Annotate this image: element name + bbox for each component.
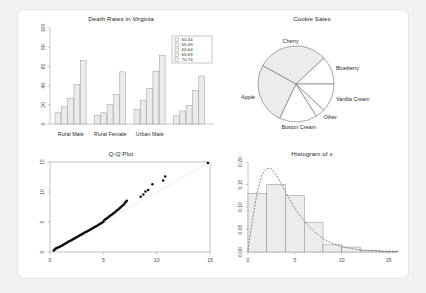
qqplot-point bbox=[162, 179, 165, 182]
qqplot-ytick: 10 bbox=[39, 189, 45, 195]
barplot-svg: 020406080100Rural MaleRural FemaleUrban … bbox=[24, 12, 218, 148]
qqplot-xtick: 15 bbox=[207, 257, 213, 263]
barplot-legend-label: 70-74 bbox=[182, 57, 194, 62]
barplot-bar bbox=[68, 98, 74, 124]
barplot-legend-key bbox=[175, 38, 178, 41]
barplot-bar bbox=[101, 113, 107, 124]
barplot-bar bbox=[140, 101, 146, 124]
barplot-bar bbox=[120, 72, 126, 124]
barplot-legend-key bbox=[175, 43, 178, 46]
qqplot-point bbox=[151, 183, 154, 186]
piechart-svg: BlueberryCherryAppleBoston CreamOtherVan… bbox=[218, 12, 406, 148]
qqplot-point bbox=[142, 193, 145, 196]
histogram-ytick: 0.00 bbox=[237, 247, 243, 257]
pie-slice-label: Other bbox=[323, 114, 337, 120]
histogram-bar bbox=[286, 196, 305, 252]
barplot-bar bbox=[134, 109, 140, 124]
histogram-ytick: 0.20 bbox=[237, 157, 243, 167]
pie-slice-label: Blueberry bbox=[336, 65, 359, 71]
barplot-category-label: Rural Female bbox=[94, 131, 126, 137]
barplot-panel: Death Rates in Virginia 020406080100Rura… bbox=[24, 12, 218, 148]
barplot-bar bbox=[192, 90, 198, 124]
qqplot-xtick: 5 bbox=[102, 257, 105, 263]
barplot-bar bbox=[107, 105, 113, 124]
barplot-bar bbox=[186, 105, 192, 124]
barplot-legend-key bbox=[175, 58, 178, 61]
qqplot-svg: 051015051015 bbox=[24, 148, 218, 278]
qqplot-point bbox=[207, 162, 210, 165]
qqplot-point bbox=[147, 189, 150, 192]
barplot-bar bbox=[147, 88, 153, 124]
barplot-category-label: Urban Male bbox=[136, 131, 164, 137]
qqplot-point bbox=[144, 190, 147, 193]
barplot-bar bbox=[61, 107, 67, 124]
histogram-title: Histogram of x bbox=[218, 150, 406, 157]
histogram-xtick: 15 bbox=[386, 257, 392, 263]
histogram-bar bbox=[342, 247, 361, 252]
histogram-ytick: 0.05 bbox=[237, 224, 243, 234]
barplot-ytick: 80 bbox=[40, 44, 46, 50]
barplot-bar bbox=[113, 94, 119, 124]
barplot-legend-key bbox=[175, 53, 178, 56]
qqplot-xtick: 10 bbox=[154, 257, 160, 263]
barplot-bar bbox=[180, 111, 186, 124]
barplot-bar bbox=[153, 72, 159, 124]
pie-slice-label: Cherry bbox=[283, 38, 299, 44]
barplot-title: Death Rates in Virginia bbox=[24, 15, 218, 22]
qqplot-ytick: 5 bbox=[39, 220, 45, 223]
barplot-bar bbox=[159, 56, 165, 124]
graphics-device-panel: Death Rates in Virginia 020406080100Rura… bbox=[17, 9, 409, 279]
qqplot-ytick: 15 bbox=[39, 159, 45, 165]
barplot-bar bbox=[55, 113, 61, 124]
barplot-bar bbox=[199, 76, 205, 124]
histogram-bar bbox=[304, 223, 323, 252]
qqplot-point bbox=[164, 175, 167, 178]
piechart-panel: Cookie Sales BlueberryCherryAppleBoston … bbox=[218, 12, 406, 148]
pie-slice-label: Vanilla Cream bbox=[336, 96, 370, 102]
qqplot-ytick: 0 bbox=[39, 250, 45, 253]
barplot-ytick: 100 bbox=[40, 24, 46, 33]
histogram-bar bbox=[267, 185, 286, 253]
barplot-ytick: 0 bbox=[40, 122, 46, 125]
barplot-bar bbox=[174, 116, 180, 124]
qqplot-point bbox=[126, 199, 129, 202]
barplot-bar bbox=[74, 85, 80, 124]
barplot-ytick: 40 bbox=[40, 83, 46, 89]
histogram-ytick: 0.15 bbox=[237, 179, 243, 189]
qqplot-panel: Q-Q Plot 051015051015 bbox=[24, 148, 218, 278]
histogram-panel: Histogram of x 0.000.050.100.150.2005101… bbox=[218, 148, 406, 278]
barplot-category-label: Rural Male bbox=[58, 131, 84, 137]
barplot-ytick: 20 bbox=[40, 102, 46, 108]
pie-slice-label: Boston Cream bbox=[281, 124, 316, 130]
histogram-ytick: 0.10 bbox=[237, 202, 243, 212]
piechart-title: Cookie Sales bbox=[218, 15, 406, 22]
barplot-bar bbox=[95, 116, 101, 124]
pie-slice-label: Apple bbox=[241, 94, 255, 100]
histogram-xtick: 10 bbox=[339, 257, 345, 263]
barplot-bar bbox=[80, 61, 86, 124]
histogram-xtick: 0 bbox=[247, 257, 250, 263]
barplot-legend-key bbox=[175, 48, 178, 51]
barplot-ytick: 60 bbox=[40, 63, 46, 69]
histogram-xtick: 5 bbox=[293, 257, 296, 263]
qqplot-point bbox=[139, 196, 142, 199]
qqplot-title: Q-Q Plot bbox=[24, 150, 218, 157]
histogram-bar bbox=[248, 194, 267, 253]
histogram-svg: 0.000.050.100.150.20051015 bbox=[218, 148, 406, 278]
qqplot-xtick: 0 bbox=[49, 257, 52, 263]
